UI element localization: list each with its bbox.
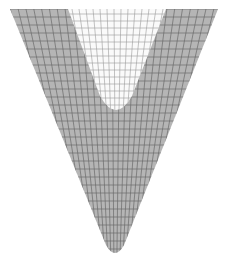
fe-mesh-diagram xyxy=(0,0,230,270)
mesh-figure xyxy=(0,0,230,270)
